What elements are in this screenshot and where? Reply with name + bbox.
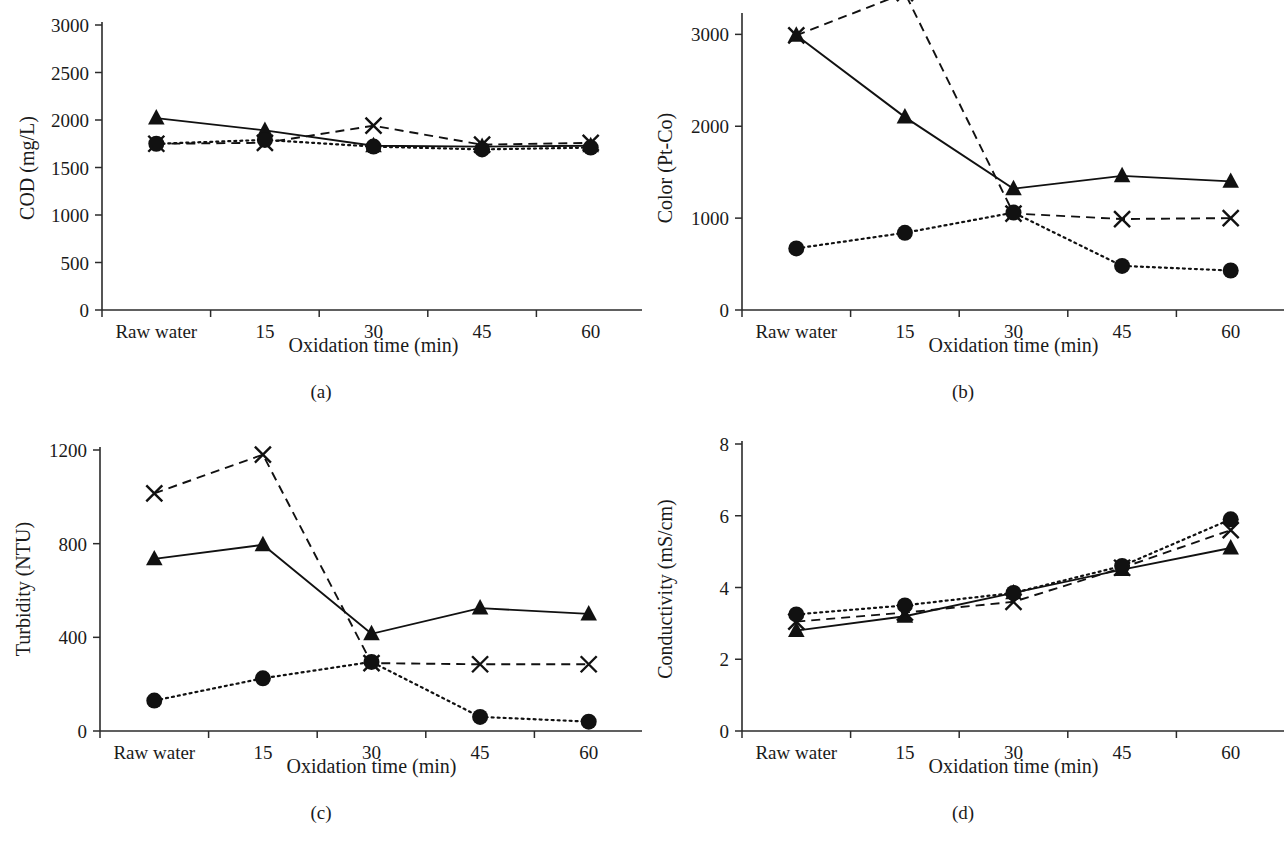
x-tick-label: Raw water: [115, 321, 197, 342]
plot-area: [148, 109, 599, 157]
y-tick-label: 1000: [691, 208, 729, 229]
marker-circle: [788, 606, 804, 622]
panel-caption: (d): [952, 802, 974, 824]
chart-panel-a: 050010001500200025003000Raw water1530456…: [0, 0, 642, 421]
marker-circle: [472, 709, 488, 725]
marker-triangle: [1114, 167, 1131, 182]
x-tick-label: 15: [255, 321, 274, 342]
y-tick-label: 1000: [51, 205, 89, 226]
chart-svg-a: 050010001500200025003000Raw water1530456…: [0, 0, 642, 421]
x-tick-label: Raw water: [755, 742, 837, 763]
y-axis-title: Conductivity (mS/cm): [654, 499, 677, 678]
y-axis-title: COD (mg/L): [16, 116, 39, 220]
series-line-triangle: [796, 35, 1230, 188]
figure-container: 050010001500200025003000Raw water1530456…: [0, 0, 1284, 843]
x-tick-label: 60: [579, 742, 598, 763]
x-tick-label: 60: [1221, 742, 1240, 763]
marker-circle: [897, 597, 913, 613]
y-tick-label: 0: [720, 300, 730, 321]
y-axis-title: Turbidity (NTU): [12, 522, 35, 656]
y-tick-label: 4: [720, 578, 730, 599]
series-line-triangle: [154, 545, 588, 634]
y-tick-label: 8: [720, 434, 730, 455]
y-tick-label: 1500: [51, 158, 89, 179]
series-circle: [788, 511, 1238, 622]
marker-circle: [366, 139, 382, 155]
x-tick-label: 45: [473, 321, 492, 342]
x-tick-label: 45: [1113, 742, 1132, 763]
x-tick-label: 60: [581, 321, 600, 342]
series-triangle: [146, 536, 597, 640]
marker-circle: [364, 654, 380, 670]
chart-svg-d: 02468Raw water15304560Conductivity (mS/c…: [642, 421, 1284, 842]
marker-circle: [148, 136, 164, 152]
series-line-circle: [796, 213, 1230, 271]
marker-circle: [1223, 511, 1239, 527]
x-tick-label: Raw water: [113, 742, 195, 763]
y-tick-label: 0: [80, 300, 90, 321]
marker-circle: [581, 714, 597, 730]
series-circle: [146, 654, 596, 730]
x-axis-title: Oxidation time (min): [929, 755, 1099, 778]
series-line-circle: [154, 662, 588, 722]
marker-triangle: [897, 108, 914, 123]
marker-circle: [897, 225, 913, 241]
y-tick-label: 500: [61, 253, 90, 274]
y-tick-label: 2500: [51, 63, 89, 84]
plot-area: [788, 0, 1239, 278]
marker-circle: [1114, 558, 1130, 574]
panel-caption: (b): [952, 381, 974, 403]
marker-x: [255, 447, 271, 463]
x-axis-title: Oxidation time (min): [287, 755, 457, 778]
marker-x: [897, 0, 913, 1]
marker-triangle: [255, 536, 272, 551]
marker-circle: [146, 693, 162, 709]
x-tick-label: 45: [1113, 321, 1132, 342]
y-tick-label: 2: [720, 649, 730, 670]
x-tick-label: 45: [471, 742, 490, 763]
y-tick-label: 0: [720, 721, 730, 742]
plot-area: [146, 447, 597, 730]
chart-panel-c: 04008001200Raw water15304560Turbidity (N…: [0, 421, 642, 842]
y-tick-label: 2000: [51, 110, 89, 131]
y-tick-label: 2000: [691, 116, 729, 137]
marker-circle: [1223, 262, 1239, 278]
marker-x: [146, 485, 162, 501]
series-x: [788, 522, 1238, 629]
series-circle: [788, 205, 1238, 279]
marker-circle: [257, 132, 273, 148]
series-line-x: [796, 530, 1230, 622]
chart-panel-d: 02468Raw water15304560Conductivity (mS/c…: [642, 421, 1284, 842]
marker-circle: [1006, 205, 1022, 221]
chart-svg-b: 0100020003000Raw water15304560Color (Pt-…: [642, 0, 1284, 421]
y-tick-label: 1200: [49, 440, 87, 461]
marker-triangle: [1222, 539, 1239, 554]
x-tick-label: Raw water: [755, 321, 837, 342]
y-tick-label: 0: [78, 721, 88, 742]
y-tick-label: 400: [59, 627, 88, 648]
x-tick-label: 15: [895, 321, 914, 342]
series-triangle: [788, 26, 1239, 195]
x-tick-label: 15: [253, 742, 272, 763]
chart-panel-b: 0100020003000Raw water15304560Color (Pt-…: [642, 0, 1284, 421]
y-tick-label: 6: [720, 506, 730, 527]
y-tick-label: 3000: [691, 24, 729, 45]
y-tick-label: 800: [59, 534, 88, 555]
marker-circle: [788, 240, 804, 256]
marker-circle: [583, 140, 599, 156]
x-tick-label: 15: [895, 742, 914, 763]
panel-caption: (a): [310, 381, 331, 403]
marker-circle: [1006, 585, 1022, 601]
y-axis-title: Color (Pt-Co): [654, 113, 677, 224]
plot-area: [788, 511, 1239, 637]
panel-caption: (c): [310, 802, 331, 824]
marker-triangle: [148, 109, 165, 124]
marker-triangle: [472, 599, 489, 614]
y-tick-label: 3000: [51, 15, 89, 36]
marker-circle: [255, 670, 271, 686]
marker-circle: [1114, 258, 1130, 274]
x-axis-title: Oxidation time (min): [289, 334, 459, 357]
x-tick-label: 60: [1221, 321, 1240, 342]
marker-triangle: [1222, 172, 1239, 187]
x-axis-title: Oxidation time (min): [929, 334, 1099, 357]
